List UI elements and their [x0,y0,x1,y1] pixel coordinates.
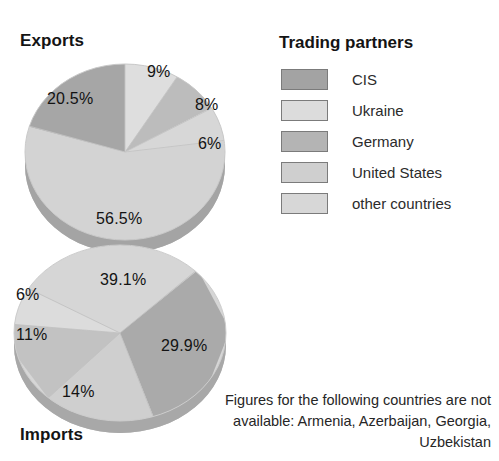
legend-swatch-ukraine [281,100,328,121]
legend-title: Trading partners [279,33,413,53]
legend-label-cis: CIS [352,71,377,88]
legend-label-united-states: United States [352,164,442,181]
legend-label-ukraine: Ukraine [352,102,404,119]
legend-label-other-countries: other countries [352,195,451,212]
imports-chart-title: Imports [20,425,83,445]
imports-label-united-states: 11% [16,326,47,344]
legend-item-ukraine: Ukraine [281,95,491,126]
imports-label-ukraine: 29.9% [161,337,207,355]
exports-label-other-countries: 20.5% [47,90,93,108]
infographic-root: Exports [0,0,499,461]
legend-swatch-cis [281,69,328,90]
exports-chart-title: Exports [20,31,84,51]
imports-label-germany: 14% [62,383,95,401]
legend-item-other-countries: other countries [281,188,491,219]
legend: CIS Ukraine Germany United States other … [281,64,491,219]
legend-item-united-states: United States [281,157,491,188]
legend-item-germany: Germany [281,126,491,157]
exports-pie-chart: 9% 8% 6% 56.5% 20.5% [12,55,237,260]
exports-label-united-states: 6% [198,135,222,153]
legend-swatch-united-states [281,162,328,183]
legend-label-germany: Germany [352,133,414,150]
exports-label-germany: 8% [195,96,219,114]
exports-label-ukraine: 9% [147,63,171,81]
imports-label-cis: 39.1% [100,271,146,289]
legend-swatch-germany [281,131,328,152]
exports-label-cis: 56.5% [96,210,142,228]
legend-item-cis: CIS [281,64,491,95]
imports-label-other-countries: 6% [16,286,40,304]
footnote-text: Figures for the following countries are … [201,390,491,453]
legend-swatch-other-countries [281,193,328,214]
